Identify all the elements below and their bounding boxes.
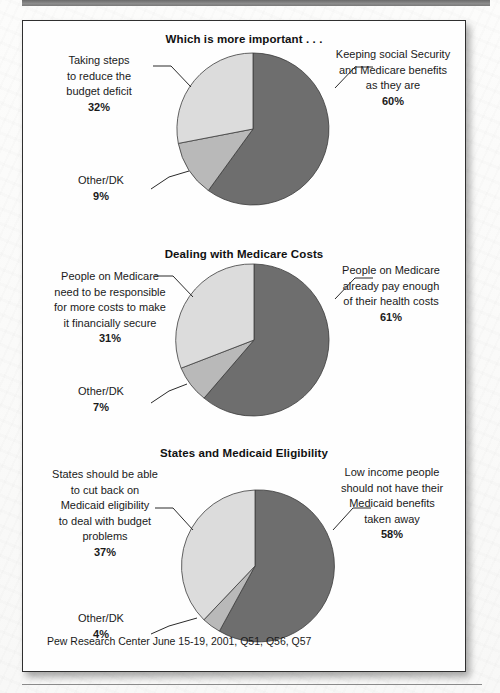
chart-1-title: Which is more important . . . <box>23 33 465 45</box>
chart-3-left-pct: 37% <box>29 545 181 561</box>
chart-2-other-text: Other/DK <box>78 385 124 397</box>
chart-3-left-line-5: problems <box>82 530 127 542</box>
chart-1-left-line-2: to reduce the <box>67 70 131 82</box>
chart-1-other-text: Other/DK <box>78 174 124 186</box>
chart-2-left-line-3: for more costs to make <box>54 301 166 313</box>
chart-1-left-label: Taking steps to reduce the budget defici… <box>35 53 163 115</box>
chart-2-right-line-2: already pay enough <box>343 280 440 292</box>
chart-3-left-line-1: States should be able <box>52 468 158 480</box>
bottom-rule <box>22 684 482 685</box>
chart-1-pie <box>175 49 355 229</box>
chart-2-other-pct: 7% <box>41 400 161 416</box>
chart-1-left-line-3: budget deficit <box>66 85 131 97</box>
chart-3-right-line-1: Low income people <box>345 466 440 478</box>
top-rule <box>22 0 490 6</box>
chart-1-other-label: Other/DK 9% <box>41 173 161 204</box>
chart-3-left-line-4: to deal with budget <box>59 515 151 527</box>
chart-2-left-line-1: People on Medicare <box>61 270 159 282</box>
chart-2-left-label: People on Medicare need to be responsibl… <box>35 269 185 347</box>
chart-2-right-line-3: of their health costs <box>343 295 438 307</box>
chart-1-right-line-2: and Medicare benefits <box>339 64 447 76</box>
chart-3-right-line-2: should not have their <box>341 482 443 494</box>
chart-3-left-line-2: to cut back on <box>71 484 140 496</box>
figure-panel: Which is more important . . . Taking ste… <box>22 20 466 672</box>
chart-1-left-line-1: Taking steps <box>68 54 129 66</box>
chart-2-right-line-1: People on Medicare <box>342 264 440 276</box>
chart-3-right-line-3: Medicaid benefits <box>349 497 435 509</box>
chart-3-left-label: States should be able to cut back on Med… <box>29 467 181 560</box>
chart-3-title: States and Medicaid Eligibility <box>23 447 465 459</box>
chart-1-left-pct: 32% <box>35 100 163 116</box>
chart-2-left-line-2: need to be responsible <box>54 286 165 298</box>
chart-2-other-label: Other/DK 7% <box>41 384 161 415</box>
source-note: Pew Research Center June 15-19, 2001, Q5… <box>47 635 311 647</box>
chart-1-other-pct: 9% <box>41 189 161 205</box>
chart-1-right-line-3: as they are <box>366 79 420 91</box>
chart-3-left-line-3: Medicaid eligibility <box>61 499 150 511</box>
chart-2-left-pct: 31% <box>35 331 185 347</box>
chart-2-title: Dealing with Medicare Costs <box>23 248 465 260</box>
chart-1-slice-light <box>177 53 253 143</box>
chart-3-other-text: Other/DK <box>78 612 124 624</box>
chart-3-right-line-4: taken away <box>364 513 420 525</box>
chart-2-pie <box>175 260 355 440</box>
chart-2-left-line-4: it financially secure <box>64 317 157 329</box>
